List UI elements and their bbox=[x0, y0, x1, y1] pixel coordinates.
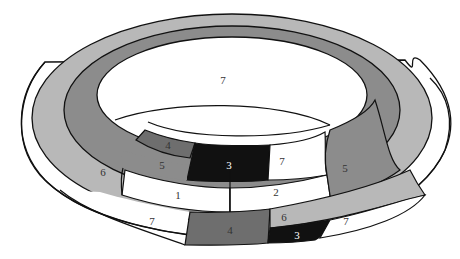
label-7-left: 7 bbox=[149, 215, 155, 227]
label-3-center: 3 bbox=[226, 159, 232, 171]
label-5-left: 5 bbox=[159, 159, 165, 171]
label-7-mid: 7 bbox=[279, 155, 285, 167]
label-6-right: 6 bbox=[281, 211, 287, 223]
label-4-back: 4 bbox=[165, 139, 171, 151]
label-4-front: 4 bbox=[227, 224, 233, 236]
label-7-right: 7 bbox=[343, 215, 349, 227]
label-6-left: 6 bbox=[100, 166, 106, 178]
label-2: 2 bbox=[273, 186, 279, 198]
torus-diagram: 7 4 5 3 7 6 1 2 5 7 4 6 3 7 bbox=[0, 0, 460, 259]
label-5-right: 5 bbox=[342, 162, 348, 174]
label-1: 1 bbox=[175, 189, 181, 201]
label-3-front: 3 bbox=[294, 229, 300, 241]
label-7-top: 7 bbox=[220, 74, 226, 86]
